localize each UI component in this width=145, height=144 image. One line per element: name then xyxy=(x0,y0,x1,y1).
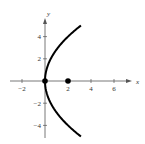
vertex-point xyxy=(42,78,48,84)
x-axis-label: x xyxy=(135,78,140,86)
y-tick-label: 4 xyxy=(38,33,42,41)
y-axis-arrow xyxy=(43,18,47,24)
x-tick-label: 6 xyxy=(112,85,116,93)
x-tick-label: 4 xyxy=(89,85,93,93)
y-axis-label: y xyxy=(46,10,51,18)
y-tick-label: 2 xyxy=(38,55,42,63)
focus-point xyxy=(65,78,71,84)
axes xyxy=(10,18,132,138)
y-tick-label: −4 xyxy=(34,122,42,130)
x-tick-label: 2 xyxy=(66,85,70,93)
parabola-chart: −2246−4−224 x y xyxy=(0,0,145,144)
y-tick-label: −2 xyxy=(34,100,42,108)
x-axis-arrow xyxy=(126,79,132,83)
x-tick-label: −2 xyxy=(18,85,26,93)
